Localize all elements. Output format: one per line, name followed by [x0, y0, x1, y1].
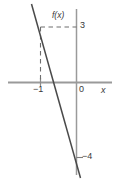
- y-tick-label-3: 3: [80, 21, 85, 30]
- x-tick-label-neg-one: −1: [33, 85, 43, 94]
- function-graph-figure: f(x) 3 −1 0 x −4: [0, 0, 117, 179]
- function-label: f(x): [52, 11, 64, 20]
- y-value-label-neg-four: −4: [82, 152, 92, 161]
- x-axis-label: x: [101, 86, 106, 95]
- plot-canvas: [0, 0, 117, 179]
- origin-label: 0: [79, 85, 84, 94]
